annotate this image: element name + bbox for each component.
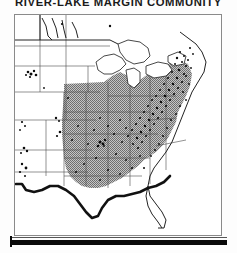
map-canvas (0, 0, 237, 253)
figure-rule-thin (10, 237, 227, 238)
distribution-map-figure: RIVER-LAKE MARGIN COMMUNITY (0, 0, 237, 253)
figure-rule-tick (10, 236, 12, 247)
figure-rule-bar (10, 240, 227, 245)
